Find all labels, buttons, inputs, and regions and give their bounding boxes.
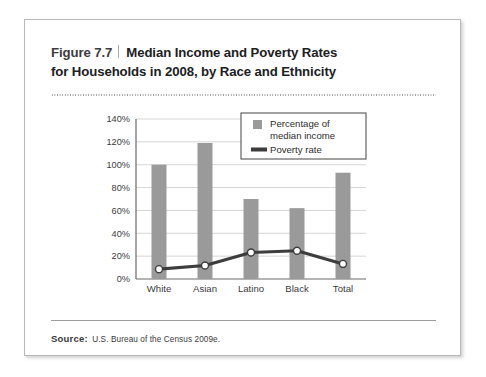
x-tick-label-white: White: [147, 283, 172, 294]
poverty-rate-marker-total: [340, 260, 347, 267]
bar-latino: [244, 199, 259, 279]
poverty-rate-marker-latino: [248, 249, 255, 256]
y-axis-tick-labels: 0%20%40%60%80%100%120%140%: [107, 114, 131, 284]
legend-swatch-bar-icon: [253, 120, 262, 129]
legend-label-percentage-line1: Percentage of: [270, 118, 330, 129]
y-tick-label: 40%: [112, 229, 130, 239]
source-text: U.S. Bureau of the Census 2009e.: [92, 335, 220, 344]
bar-white: [152, 165, 167, 279]
chart-area: 0%20%40%60%80%100%120%140% WhiteAsianLat…: [25, 20, 462, 357]
x-tick-label-latino: Latino: [238, 283, 264, 294]
x-tick-label-black: Black: [285, 283, 309, 294]
chart-legend: Percentage of median income Poverty rate: [241, 113, 366, 159]
y-tick-label: 140%: [107, 114, 131, 124]
legend-swatch-line-icon: [251, 148, 267, 152]
y-tick-label: 80%: [112, 183, 130, 193]
y-tick-label: 120%: [107, 137, 131, 147]
y-tick-label: 60%: [112, 206, 130, 216]
poverty-rate-marker-black: [294, 247, 301, 254]
x-axis-category-labels: WhiteAsianLatinoBlackTotal: [147, 283, 353, 294]
figure-card: Figure 7.7Median Income and Poverty Rate…: [24, 19, 461, 356]
legend-label-poverty-rate: Poverty rate: [270, 144, 322, 155]
poverty-rate-marker-white: [156, 266, 163, 273]
source-label: Source:: [51, 333, 88, 344]
source-divider: [51, 320, 436, 321]
y-tick-label: 0%: [117, 274, 130, 284]
y-tick-label: 20%: [112, 251, 130, 261]
legend-label-percentage-line2: median income: [270, 130, 335, 141]
poverty-rate-marker-asian: [202, 262, 209, 269]
bar-asian: [198, 143, 213, 279]
x-tick-label-asian: Asian: [193, 283, 217, 294]
x-tick-label-total: Total: [333, 283, 353, 294]
source-note: Source: U.S. Bureau of the Census 2009e.: [51, 328, 441, 346]
bar-black: [290, 208, 305, 279]
chart-svg: 0%20%40%60%80%100%120%140% WhiteAsianLat…: [25, 20, 462, 357]
y-tick-label: 100%: [107, 160, 131, 170]
